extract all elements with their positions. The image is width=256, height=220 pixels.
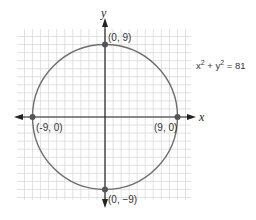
x-axis-right-arrow-icon <box>187 114 196 120</box>
x-axis-left-arrow-icon <box>14 114 23 120</box>
equation-label: x2 + y2 = 81 <box>196 59 246 71</box>
y-axis-label: y <box>100 6 107 20</box>
circle-graph: x y (0, 9) (-9, 0) (9, 0) (0, −9) x2 + y… <box>0 0 256 220</box>
x-axis-label: x <box>198 110 205 124</box>
label-point-left: (-9, 0) <box>36 122 63 133</box>
label-point-right: (9, 0) <box>154 122 177 133</box>
grid <box>17 29 191 200</box>
label-point-bottom: (0, −9) <box>108 194 137 205</box>
point-left <box>30 114 36 120</box>
point-bottom <box>102 187 108 193</box>
equation-plus: + <box>205 60 216 71</box>
point-right <box>175 114 181 120</box>
label-point-top: (0, 9) <box>108 32 131 43</box>
equation-rhs: = 81 <box>224 60 245 71</box>
